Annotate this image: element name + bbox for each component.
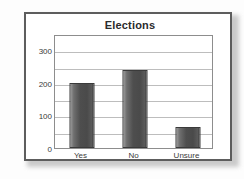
y-axis-tick-labels: 0100200300	[26, 35, 52, 149]
y-tick-label: 100	[26, 112, 52, 121]
plot-area	[54, 35, 213, 149]
chart-figure: Elections 0100200300 YesNoUnsure	[0, 0, 244, 179]
bar-slot	[55, 36, 108, 148]
bar-series	[55, 36, 212, 148]
x-tick-label: Unsure	[174, 151, 200, 160]
bar-slot	[161, 36, 214, 148]
x-tick-label: Yes	[74, 151, 87, 160]
bar	[175, 127, 200, 148]
y-tick-label: 300	[26, 47, 52, 56]
y-tick-label: 200	[26, 79, 52, 88]
y-tick-label: 0	[26, 145, 52, 154]
chart-card: Elections 0100200300 YesNoUnsure	[24, 12, 232, 161]
x-axis-tick-labels: YesNoUnsure	[54, 151, 213, 165]
x-tick-label: No	[128, 151, 138, 160]
bar	[69, 83, 94, 148]
bar	[122, 70, 147, 148]
bar-slot	[108, 36, 161, 148]
chart-title: Elections	[26, 19, 234, 31]
